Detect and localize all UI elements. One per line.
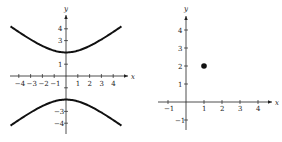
y-tick-label: −1	[175, 117, 185, 125]
y-tick-label: 1	[178, 81, 182, 89]
y-tick-label: −3	[54, 108, 64, 116]
left-graph-hyperbola: xy−4−3−2−11234431−3−4	[10, 5, 135, 134]
y-tick-label: 3	[178, 45, 182, 53]
y-tick-label: 3	[58, 37, 62, 45]
x-tick-label: 4	[111, 80, 116, 88]
figure: xy−4−3−2−11234431−3−4 xy−112344321−1	[0, 0, 282, 142]
y-tick-label: 2	[178, 63, 182, 71]
x-tick-label: 3	[99, 80, 103, 88]
y-axis-label: y	[63, 5, 69, 13]
right-graph-point: xy−112344321−1	[158, 5, 279, 130]
data-point	[201, 63, 207, 69]
y-tick-label: 1	[58, 61, 62, 69]
x-tick-label: −3	[27, 80, 37, 88]
x-axis-label: x	[275, 99, 279, 107]
y-tick-label: −4	[54, 120, 65, 128]
x-tick-label: 1	[76, 80, 80, 88]
x-tick-label: −1	[164, 105, 174, 113]
y-axis-label: y	[183, 5, 189, 13]
x-tick-label: 4	[256, 105, 261, 113]
x-tick-label: 2	[220, 105, 224, 113]
x-tick-label: 1	[202, 105, 206, 113]
y-tick-label: 4	[178, 27, 183, 35]
x-tick-label: −4	[15, 80, 26, 88]
x-tick-label: −1	[50, 80, 60, 88]
y-tick-label: 4	[58, 25, 63, 33]
x-tick-label: −2	[38, 80, 48, 88]
x-tick-label: 2	[88, 80, 92, 88]
x-axis-label: x	[131, 73, 135, 81]
x-tick-label: 3	[238, 105, 242, 113]
